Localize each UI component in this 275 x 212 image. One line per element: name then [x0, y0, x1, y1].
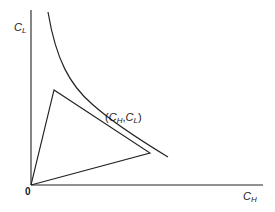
convex-curve [48, 12, 168, 157]
origin-label: 0 [25, 187, 31, 197]
y-axis-label-sub: L [22, 26, 26, 35]
tangent-point-label: (CH,CL) [105, 112, 142, 125]
diagram-canvas [0, 0, 275, 212]
paren-close: ) [138, 111, 142, 123]
y-axis-label-main: C [14, 21, 22, 33]
triangle [31, 90, 150, 185]
y-axis-label: CL [14, 22, 26, 35]
x-axis-label-main: C [243, 190, 251, 202]
point-c1-main: C [109, 111, 117, 123]
x-axis-label-sub: H [251, 195, 257, 204]
x-axis-label: CH [243, 191, 257, 204]
